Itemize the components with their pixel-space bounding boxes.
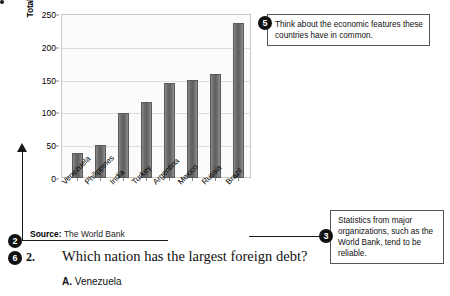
y-axis-ticks: 250 200 150 100 50 0 bbox=[28, 8, 59, 184]
y-tick-mark bbox=[56, 15, 59, 16]
y-tick-label-50: 50 bbox=[47, 141, 56, 151]
callout-box-5: Think about the economic features these … bbox=[267, 14, 430, 46]
x-tick-mark bbox=[192, 178, 193, 181]
leader-line-2-horizontal bbox=[22, 240, 168, 241]
x-tick-mark bbox=[100, 178, 101, 181]
bar-russia bbox=[210, 74, 221, 178]
answer-option-a[interactable]: A. Venezuela bbox=[62, 276, 122, 287]
worksheet-page: Total Debt (Billions of Dollars) 250 200… bbox=[0, 0, 450, 296]
x-tick-mark bbox=[123, 178, 124, 181]
x-tick-mark bbox=[146, 178, 147, 181]
marker-3: 3 bbox=[319, 229, 333, 243]
bar-series bbox=[62, 15, 250, 178]
y-tick-mark bbox=[56, 146, 59, 147]
x-tick-mark bbox=[77, 178, 78, 181]
cut-off-title-sliver bbox=[100, 0, 280, 5]
answer-text-a: Venezuela bbox=[75, 276, 122, 287]
marker-5: 5 bbox=[258, 16, 272, 30]
bar-chart-figure: Total Debt (Billions of Dollars) 250 200… bbox=[28, 8, 260, 223]
marker-6: 6 bbox=[8, 251, 22, 265]
leader-line-3 bbox=[249, 236, 321, 237]
question-text: Which nation has the largest foreign deb… bbox=[62, 248, 307, 265]
marker-2: 2 bbox=[8, 234, 22, 248]
leader-arrow-2-icon bbox=[17, 143, 27, 152]
leader-dot-3 bbox=[0, 0, 4, 4]
source-text: The World Bank bbox=[64, 229, 125, 239]
y-tick-label-100: 100 bbox=[42, 108, 56, 118]
y-tick-mark bbox=[56, 179, 59, 180]
answer-letter-a: A. bbox=[62, 276, 72, 287]
y-tick-mark bbox=[56, 80, 59, 81]
source-label: Source: bbox=[30, 229, 62, 239]
x-tick-mark bbox=[215, 178, 216, 181]
y-tick-label-150: 150 bbox=[42, 76, 56, 86]
x-tick-mark bbox=[169, 178, 170, 181]
callout-5-text: Think about the economic features these … bbox=[275, 20, 423, 40]
y-tick-label-250: 250 bbox=[42, 10, 56, 20]
y-tick-mark bbox=[56, 113, 59, 114]
bar-brazil bbox=[233, 23, 244, 178]
question-number: 2. bbox=[26, 250, 35, 265]
y-tick-label-200: 200 bbox=[42, 43, 56, 53]
callout-box-3: Statistics from major organizations, suc… bbox=[330, 210, 444, 264]
leader-line-2-vertical bbox=[22, 150, 23, 241]
callout-3-text: Statistics from major organizations, suc… bbox=[338, 216, 433, 258]
x-axis-labels: Venezuela Philippines India Turkey Argen… bbox=[61, 180, 253, 224]
y-tick-mark bbox=[56, 47, 59, 48]
source-line: Source: The World Bank bbox=[30, 229, 125, 239]
